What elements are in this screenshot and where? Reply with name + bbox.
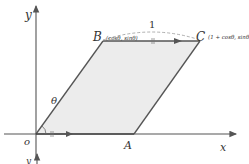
segment-length-label: 1	[149, 19, 155, 30]
parallelogram-fill	[36, 41, 200, 134]
point-c-coords: (1 + cosθ, sinθ	[208, 34, 249, 40]
origin-label: o	[24, 136, 30, 147]
point-c-label: C	[196, 30, 205, 44]
second-y-axis-label: y	[25, 156, 32, 164]
parallelogram-diagram: y x o θ A B (cosθ, sinθ) C (1 + cosθ, si…	[0, 0, 249, 164]
point-b-label: B	[92, 30, 102, 44]
y-axis-label: y	[24, 8, 32, 22]
angle-label: θ	[51, 95, 57, 106]
point-b-coords: (cosθ, sinθ)	[106, 35, 138, 41]
point-a-label: A	[123, 139, 132, 152]
x-axis-label: x	[220, 141, 227, 154]
